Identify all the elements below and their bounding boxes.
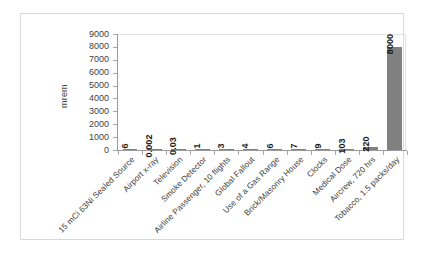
bar-slot: 6	[263, 34, 287, 150]
y-tick-mark	[113, 98, 117, 99]
y-tick-label: 3000	[69, 107, 109, 116]
bar-value-label: 4	[240, 144, 250, 149]
x-tick-mark	[142, 151, 143, 155]
y-axis-tick-labels: 9000800070006000500040003000200010000	[69, 29, 109, 156]
y-tick-mark	[113, 86, 117, 87]
x-tick-mark	[214, 151, 215, 155]
y-tick-label: 9000	[69, 30, 109, 39]
x-tick-mark	[263, 151, 264, 155]
bar-value-label: 0.03	[168, 137, 178, 155]
bar-value-label: 3	[216, 144, 226, 149]
bar-slot: 7	[287, 34, 311, 150]
bar-value-label: 8000	[385, 34, 395, 54]
y-tick-mark	[113, 111, 117, 112]
y-tick-mark	[113, 150, 117, 151]
bar	[315, 149, 330, 150]
x-tick-mark	[190, 151, 191, 155]
x-tick-mark	[407, 151, 408, 155]
bar-value-label: 220	[361, 137, 371, 152]
x-tick-mark	[166, 151, 167, 155]
chart-frame: mrem 90008000700060005000400030002000100…	[20, 13, 404, 240]
y-tick-label: 6000	[69, 68, 109, 77]
bar	[243, 149, 258, 150]
bar-slot: 220	[359, 34, 383, 150]
bar-slot: 3	[214, 34, 238, 150]
x-tick-mark	[118, 151, 119, 155]
y-tick-label: 5000	[69, 81, 109, 90]
bar	[387, 47, 402, 150]
y-tick-mark	[113, 60, 117, 61]
x-tick-mark	[287, 151, 288, 155]
bar-slot: 8000	[383, 34, 407, 150]
bar	[219, 149, 234, 150]
x-tick-mark	[359, 151, 360, 155]
bar-value-label: 6	[120, 144, 130, 149]
bar-slot: 103	[335, 34, 359, 150]
bar-slot: 0.002	[142, 34, 166, 150]
x-tick-mark	[238, 151, 239, 155]
bar-slot: 6	[118, 34, 142, 150]
bar-value-label: 7	[289, 144, 299, 149]
y-tick-label: 4000	[69, 94, 109, 103]
x-tick-mark	[383, 151, 384, 155]
y-tick-mark	[113, 73, 117, 74]
bar	[123, 149, 138, 150]
bar-value-label: 103	[337, 138, 347, 153]
bar-slot: 1	[190, 34, 214, 150]
bar-value-label: 6	[265, 144, 275, 149]
y-tick-label: 1000	[69, 133, 109, 142]
y-tick-mark	[113, 137, 117, 138]
bar-slot: 4	[238, 34, 262, 150]
bar-slot: 0.03	[166, 34, 190, 150]
y-tick-label: 7000	[69, 55, 109, 64]
bar	[195, 149, 210, 150]
y-tick-label: 0	[69, 146, 109, 155]
y-tick-label: 2000	[69, 120, 109, 129]
y-tick-mark	[113, 47, 117, 48]
x-tick-mark	[335, 151, 336, 155]
bars-layer: 60.0020.031346791032208000	[118, 34, 407, 150]
x-tick-mark	[311, 151, 312, 155]
x-axis-category-labels: 15 mCi 63Ni Sealed SourceAirport x-rayTe…	[118, 155, 407, 250]
y-tick-mark	[113, 34, 117, 35]
bar-slot: 9	[311, 34, 335, 150]
bar	[291, 149, 306, 150]
y-tick-mark	[113, 124, 117, 125]
bar-value-label: 9	[313, 144, 323, 149]
y-tick-label: 8000	[69, 42, 109, 51]
bar-value-label: 1	[192, 144, 202, 149]
bar	[267, 149, 282, 150]
